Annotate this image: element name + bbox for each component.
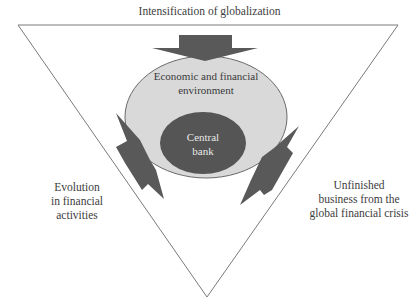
- environment-label-line: environment: [140, 83, 272, 97]
- financial-crisis-label-line: business from the: [300, 192, 418, 206]
- financial-activities-label: Evolution in financial activities: [36, 180, 118, 222]
- financial-crisis-label-line: Unfinished: [300, 178, 418, 192]
- globalization-down-arrow-icon: [152, 35, 258, 61]
- financial-crisis-label: Unfinished business from the global fina…: [300, 178, 418, 220]
- financial-activities-label-line: in financial: [36, 194, 118, 208]
- environment-label: Economic and financial environment: [140, 69, 272, 97]
- environment-label-line: Economic and financial: [140, 69, 272, 83]
- financial-activities-label-line: Evolution: [36, 180, 118, 194]
- financial-crisis-label-line: global financial crisis: [300, 206, 418, 220]
- globalization-label: Intensification of globalization: [0, 4, 419, 18]
- financial-activities-label-line: activities: [36, 208, 118, 222]
- central-bank-label-line: bank: [165, 144, 241, 158]
- central-bank-label: Central bank: [165, 130, 241, 158]
- central-bank-label-line: Central: [165, 130, 241, 144]
